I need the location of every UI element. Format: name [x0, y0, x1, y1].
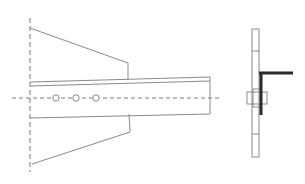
- top-gusset-plate: [30, 28, 128, 80]
- bolt-icon: [247, 92, 267, 104]
- bottom-gusset-plate: [32, 114, 130, 164]
- drawing-canvas: [0, 0, 305, 184]
- bolt-hole: [93, 95, 99, 101]
- bolt-hole: [73, 95, 79, 101]
- beam-bottom-edge: [30, 114, 210, 118]
- side-view: [247, 29, 293, 157]
- front-view: [12, 18, 222, 172]
- bolt-hole: [53, 95, 59, 101]
